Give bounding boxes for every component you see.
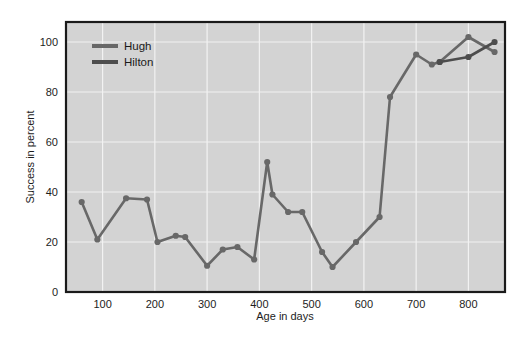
data-point [285, 209, 291, 215]
y-tick-label: 40 [46, 186, 58, 198]
data-point [220, 246, 226, 252]
y-tick-label: 20 [46, 236, 58, 248]
x-tick-label: 400 [250, 298, 268, 310]
line-chart: 100200300400500600700800 020406080100 Ag… [0, 0, 530, 338]
data-point [79, 199, 85, 205]
y-axis-title: Success in percent [24, 111, 36, 204]
x-tick-label: 200 [146, 298, 164, 310]
data-point [465, 34, 471, 40]
data-point [329, 264, 335, 270]
data-point [251, 256, 257, 262]
chart-figure: 100200300400500600700800 020406080100 Ag… [0, 0, 530, 338]
x-tick-label: 600 [355, 298, 373, 310]
data-point [491, 39, 497, 45]
data-point [234, 244, 240, 250]
legend-label-hugh: Hugh [124, 40, 152, 52]
data-point [353, 239, 359, 245]
y-tick-label: 0 [52, 286, 58, 298]
x-tick-label: 100 [93, 298, 111, 310]
data-point [491, 49, 497, 55]
legend-label-hilton: Hilton [124, 56, 153, 68]
y-tick-label: 100 [40, 36, 58, 48]
data-point [204, 263, 210, 269]
data-point [264, 159, 270, 165]
data-point [413, 51, 419, 57]
data-point [299, 209, 305, 215]
x-tick-label: 800 [459, 298, 477, 310]
data-point [437, 59, 443, 65]
data-point [182, 234, 188, 240]
data-point [376, 214, 382, 220]
x-tick-label: 500 [302, 298, 320, 310]
data-point [465, 54, 471, 60]
x-axis-title: Age in days [256, 310, 314, 322]
data-point [387, 94, 393, 100]
x-tick-label: 700 [407, 298, 425, 310]
data-point [154, 239, 160, 245]
data-point [94, 236, 100, 242]
data-point [269, 191, 275, 197]
data-point [173, 233, 179, 239]
x-tick-label: 300 [198, 298, 216, 310]
data-point [123, 195, 129, 201]
data-point [429, 61, 435, 67]
y-tick-label: 80 [46, 86, 58, 98]
y-tick-label: 60 [46, 136, 58, 148]
data-point [319, 249, 325, 255]
data-point [144, 196, 150, 202]
